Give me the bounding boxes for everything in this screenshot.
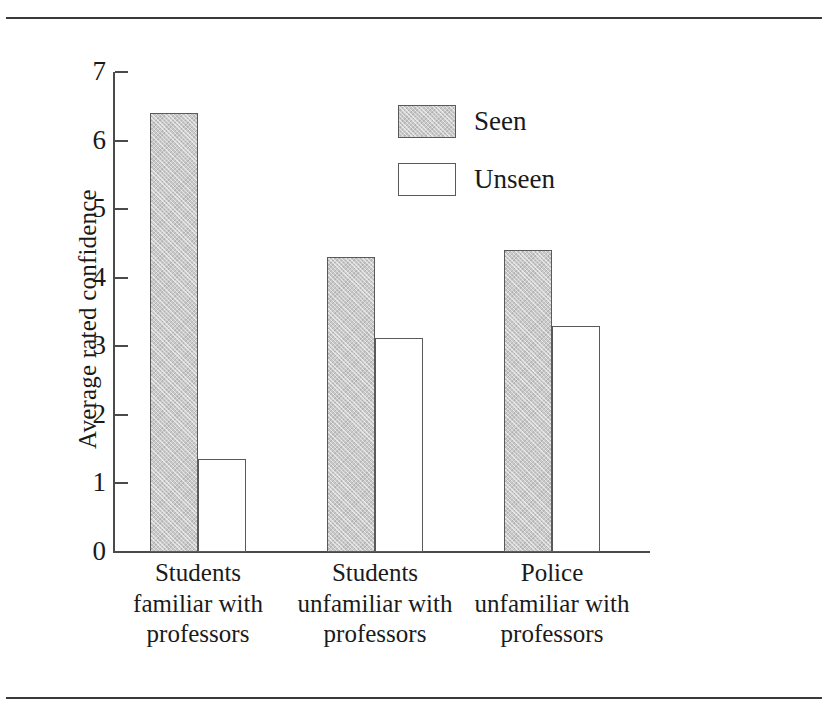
y-tick-1 xyxy=(115,482,128,484)
y-tick-label-7: 7 xyxy=(80,58,106,85)
y-tick-6 xyxy=(115,140,128,142)
bar-chart-plot: 01234567 Average rated confidence Studen… xyxy=(0,0,828,716)
bar-unseen-group-2 xyxy=(375,338,423,552)
x-category-label-line: professors xyxy=(447,619,657,650)
y-tick-3 xyxy=(115,345,128,347)
y-tick-4 xyxy=(115,277,128,279)
bar-seen-group-1 xyxy=(150,113,198,552)
legend-label-unseen: Unseen xyxy=(474,159,555,199)
y-tick-0 xyxy=(115,551,128,553)
x-category-label-line: unfamiliar with xyxy=(447,589,657,620)
y-tick-7 xyxy=(115,71,128,73)
bar-seen-group-3 xyxy=(504,250,552,552)
legend-label-seen: Seen xyxy=(474,101,526,141)
y-tick-5 xyxy=(115,208,128,210)
bar-seen-group-2 xyxy=(327,257,375,552)
bar-unseen-group-1 xyxy=(198,459,246,552)
y-tick-2 xyxy=(115,414,128,416)
y-axis-title: Average rated confidence xyxy=(74,109,102,529)
x-category-label-3: Policeunfamiliar withprofessors xyxy=(447,558,657,650)
figure: 01234567 Average rated confidence Studen… xyxy=(0,0,828,716)
bar-unseen-group-3 xyxy=(552,326,600,552)
legend-swatch-unseen-icon xyxy=(398,163,456,196)
x-category-label-line: Police xyxy=(447,558,657,589)
legend-swatch-seen-icon xyxy=(398,105,456,138)
y-axis-line xyxy=(113,72,115,553)
